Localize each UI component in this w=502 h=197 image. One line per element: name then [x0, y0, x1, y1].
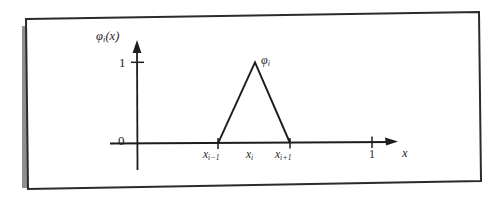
x-tick-label-x-i: xi: [246, 149, 253, 162]
x-tick-label-x-i-plus-1: xi+1: [275, 149, 292, 162]
x-axis-label: x: [402, 147, 408, 160]
y-axis-line: [137, 45, 138, 170]
figure-canvas: [0, 0, 502, 197]
y-tick-label-1: 1: [119, 56, 126, 69]
x-axis-line: [110, 142, 394, 144]
y-tick-label-0: 0: [118, 134, 125, 147]
y-axis-label: φi(x): [96, 30, 119, 45]
figure-frame: [26, 12, 481, 189]
x-tick-label-1: 1: [369, 148, 375, 160]
figure-container: φi(x) 1 0 φi xi−1 xi xi+1 1 x: [0, 0, 502, 197]
x-tick-label-x-i-minus-1: xi−1: [203, 149, 220, 162]
curve-label-phi-i: φi: [261, 54, 270, 68]
